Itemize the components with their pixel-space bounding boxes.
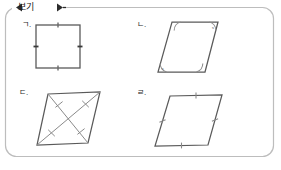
- fig-c-parallelogram: [37, 92, 100, 145]
- figure-panel: x x: [0, 0, 281, 170]
- fig-c-label: ㄷ.: [19, 88, 28, 98]
- fig-b-outline: [158, 22, 218, 72]
- fig-d-parallelogram: [155, 93, 222, 149]
- fig-a-outline: [36, 25, 80, 68]
- fig-a-square: [34, 23, 83, 71]
- fig-b-parallelogram: x x: [158, 22, 218, 72]
- fig-b-label: ㄴ.: [137, 20, 146, 30]
- banner-label: 보기: [18, 1, 35, 13]
- fig-d-label: ㄹ.: [137, 88, 146, 98]
- fig-a-label: ㄱ.: [22, 20, 31, 30]
